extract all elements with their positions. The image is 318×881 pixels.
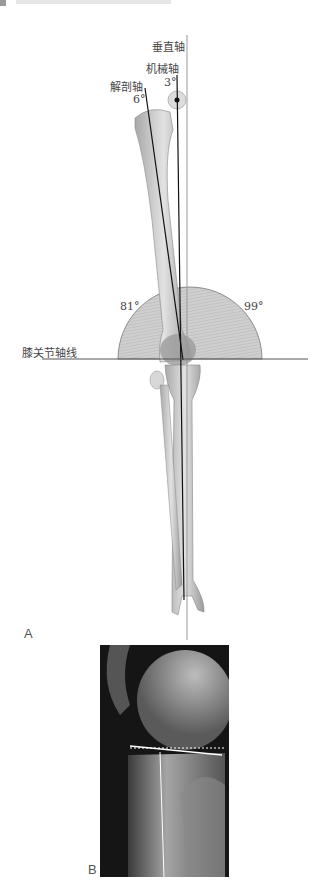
panel-label-a: A — [24, 626, 33, 641]
mechanical-angle-label: 3° — [164, 76, 177, 89]
vertical-axis-label: 垂直轴 — [152, 38, 185, 54]
leg-axis-diagram — [0, 0, 318, 640]
knee-joint-line-label: 膝关节轴线 — [22, 344, 77, 360]
anatomical-angle-label: 6° — [133, 93, 146, 106]
medial-angle-label: 81° — [120, 300, 140, 313]
knee-xray-image — [100, 645, 229, 877]
panel-label-b: B — [88, 862, 97, 877]
anatomical-axis-label: 解剖轴 — [110, 78, 143, 94]
lateral-angle-label: 99° — [244, 300, 264, 313]
mechanical-axis-label: 机械轴 — [146, 60, 179, 76]
